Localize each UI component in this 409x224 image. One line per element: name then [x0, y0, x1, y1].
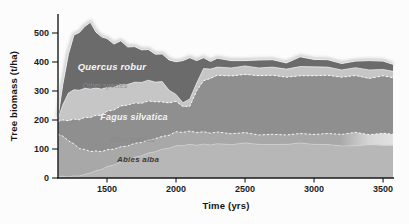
x-tick-label: 2500	[235, 184, 255, 194]
species-label-quercus-robur-quercus-robur: Quercus robur	[78, 61, 148, 72]
y-tick-label: 500	[34, 28, 49, 38]
x-tick-label: 3500	[373, 184, 393, 194]
y-tick-label: 400	[34, 57, 49, 67]
y-tick-label: 100	[34, 144, 49, 154]
y-axis-title: Tree biomass (t/ha)	[8, 51, 19, 141]
y-tick-label: 200	[34, 115, 49, 125]
species-label-abies-alba-abies-alba: Abies alba	[116, 155, 159, 164]
species-label-other-species-other-species-lower: Other species	[110, 136, 155, 144]
x-tick-label: 2000	[166, 184, 186, 194]
species-label-other-species-other-species-upper: Other species	[83, 82, 128, 90]
y-tick-label: 0	[44, 173, 49, 183]
y-tick-label: 300	[34, 86, 49, 96]
x-axis-title: Time (yrs)	[202, 200, 249, 211]
x-tick-label: 3000	[304, 184, 324, 194]
x-tick-label: 1500	[97, 184, 117, 194]
stacked-area-chart: 010020030040050015002000250030003500Abie…	[0, 0, 409, 224]
biomass-chart-figure: 010020030040050015002000250030003500Abie…	[0, 0, 409, 224]
species-label-fagus-silvatica-fagus-silvatica: Fagus silvatica	[100, 112, 168, 122]
